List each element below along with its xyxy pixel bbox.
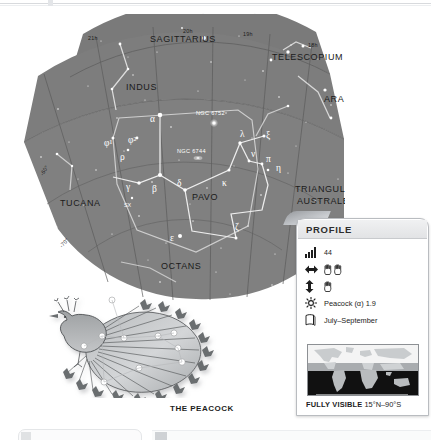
constellation-label-sagittarius: SAGITTARIUS: [150, 34, 216, 44]
height-hands-group: [324, 281, 333, 292]
star-label-nu: ν: [251, 149, 256, 159]
peacock-svg: [36, 288, 226, 398]
star-pi-pavonis: [261, 163, 264, 166]
profile-panel: PROFILE 44: [296, 218, 429, 416]
star-delta-pavonis: [183, 188, 187, 192]
star-label-alpha: α: [150, 114, 155, 124]
star-label-phi2: φ²: [128, 135, 136, 145]
width-hands-group: [324, 264, 343, 275]
star-label-delta: δ: [177, 178, 182, 188]
star-burst-icon: [305, 297, 320, 310]
dso-label-ngc6752: NGC 6752: [196, 110, 225, 116]
star-beta-pavonis: [158, 173, 162, 177]
star-label-zeta: ζ: [235, 222, 239, 233]
stat-row-height: [305, 278, 428, 294]
top-divider-rule-soft: [0, 5, 431, 6]
hand-icon: [334, 264, 343, 275]
stat-row-width: [305, 261, 428, 277]
constellation-label-triangulum: TRIANGULUM: [295, 184, 345, 194]
peacock-eye: [64, 316, 66, 318]
star-label-rho: ρ: [120, 152, 125, 162]
bottom-panel-right[interactable]: [152, 430, 431, 440]
star-label-eta: η: [276, 163, 281, 173]
peacock-caption: THE PEACOCK: [170, 404, 234, 413]
star-rho-pavonis: [127, 149, 130, 152]
star-label-lambda: λ: [240, 129, 245, 139]
star-chart-svg: 21h 20h 19h 18h -60° -70° SAGITTARIUS TE…: [0, 14, 345, 304]
visibility-caption: FULLY VISIBLE 15°N–90°S: [306, 400, 430, 409]
constellation-label-octans: OCTANS: [161, 261, 201, 271]
star-label-sx: SX: [124, 202, 132, 208]
ra-label-19h: 19h: [243, 31, 253, 37]
width-arrows-icon: [305, 263, 320, 276]
star-label-gamma: γ: [125, 182, 130, 192]
star-chart: 21h 20h 19h 18h -60° -70° SAGITTARIUS TE…: [0, 14, 345, 304]
constellation-label-telescopium: TELESCOPIUM: [272, 52, 343, 62]
star-eta-pavonis: [267, 169, 270, 172]
profile-stats-list: 44: [297, 239, 428, 331]
visibility-label: FULLY VISIBLE: [306, 400, 362, 409]
star-label-pi: π: [266, 154, 271, 164]
constellation-label-tucana: TUCANA: [60, 198, 101, 208]
star-label-kappa: κ: [222, 178, 227, 188]
best-months-value: July–September: [324, 316, 377, 325]
profile-title: PROFILE: [306, 224, 352, 235]
bottom-panel-right-label: [172, 433, 174, 440]
hand-icon: [324, 264, 333, 275]
star-sx-pavonis: [131, 197, 133, 199]
calendar-page-icon: [305, 314, 320, 327]
bottom-panel-left-marker: [21, 432, 31, 440]
star-gamma-pavonis: [137, 181, 140, 184]
constellation-label-ara: ARA: [324, 94, 344, 104]
bottom-panel-left[interactable]: [18, 429, 142, 440]
star-label-beta: β: [152, 184, 157, 194]
star-alpha-pavonis: [158, 113, 163, 118]
visibility-world-map: [307, 344, 419, 396]
stat-row-star-count: 44: [305, 244, 428, 260]
brightest-star-value: Peacock (α) 1.9: [324, 299, 376, 308]
top-left-nub: [48, 0, 53, 6]
star-lambda-pavonis: [238, 141, 241, 144]
profile-header: PROFILE: [298, 220, 427, 239]
dso-label-ngc6744: NGC 6744: [177, 148, 206, 154]
hand-icon: [324, 281, 333, 292]
bar-chart-icon: [305, 246, 320, 259]
world-map-landmasses: [308, 345, 419, 396]
visibility-range: 15°N–90°S: [364, 400, 401, 409]
star-label-phi1: φ¹: [104, 138, 112, 148]
height-arrows-icon: [305, 280, 320, 293]
peacock-legs: [74, 352, 82, 367]
constellation-label-australe: AUSTRALE: [297, 196, 345, 206]
peacock-beak: [49, 314, 58, 318]
peacock-illustration: [36, 288, 226, 398]
star-count-value: 44: [324, 249, 332, 256]
top-divider-rule: [0, 3, 431, 4]
star-zeta-pavonis: [235, 237, 238, 240]
peacock-crest: [54, 296, 79, 312]
star-label-epsilon: ε: [170, 233, 174, 243]
ra-label-18h: 18h: [308, 42, 318, 48]
stat-row-brightest-star: Peacock (α) 1.9: [305, 295, 428, 311]
stat-row-best-months: July–September: [305, 312, 428, 328]
screenshot-root: www.example.com · sample: [0, 0, 431, 440]
star-epsilon-pavonis: [178, 234, 182, 238]
constellation-label-pavo: PAVO: [192, 192, 218, 202]
bottom-panel-right-marker: [155, 432, 167, 440]
constellation-label-indus: INDUS: [126, 82, 157, 92]
star-kappa-pavonis: [228, 169, 231, 172]
star-nu-pavonis: [248, 160, 251, 163]
ra-label-21h: 21h: [88, 35, 98, 41]
